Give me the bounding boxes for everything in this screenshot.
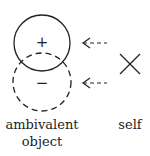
negative-sign: −: [34, 75, 50, 91]
arrow-bottom-icon: [83, 78, 107, 88]
self-cross-icon: [120, 54, 140, 74]
self-label: self: [110, 117, 150, 133]
object-label-line1: ambivalent: [4, 117, 80, 133]
positive-sign: +: [34, 34, 50, 50]
arrow-top-icon: [83, 38, 107, 48]
object-label-line2: object: [4, 134, 80, 150]
